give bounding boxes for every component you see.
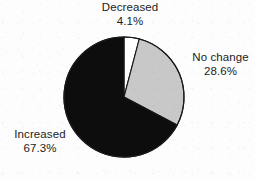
pie-label-no-change: No change 28.6% xyxy=(186,51,255,78)
pie-label-decreased: Decreased 4.1% xyxy=(82,1,178,28)
pie-label-no-change-name: No change xyxy=(186,51,255,65)
pie-label-increased: Increased 67.3% xyxy=(2,128,78,155)
pie-label-no-change-percent: 28.6% xyxy=(186,65,255,79)
pie-chart-figure: Decreased 4.1% No change 28.6% Increased… xyxy=(0,0,255,180)
pie-label-decreased-percent: 4.1% xyxy=(82,15,178,29)
pie-label-increased-percent: 67.3% xyxy=(2,142,78,156)
pie-label-decreased-name: Decreased xyxy=(82,1,178,15)
pie-label-increased-name: Increased xyxy=(2,128,78,142)
